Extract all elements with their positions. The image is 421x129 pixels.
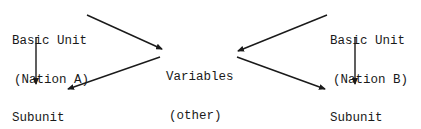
node-variables-line2: (other) — [169, 110, 234, 123]
arrow-variables-to-subunit-b — [237, 57, 325, 89]
node-subunit-a: Subunit (Leader- ship Grps) — [12, 86, 95, 129]
diagram-canvas: Basic Unit (Nation A) Basic Unit (Nation… — [0, 0, 421, 129]
node-variables-other: Variables (other) — [166, 45, 234, 129]
node-subunit-a-line1: Subunit — [12, 112, 95, 125]
node-subunit-b: Subunit (Leader- ship Grps) — [330, 86, 413, 129]
node-basic-a-line1: Basic Unit — [12, 35, 89, 48]
node-variables-line1: Variables — [166, 71, 234, 84]
node-basic-b-line1: Basic Unit — [330, 35, 408, 48]
arrow-basic-a-to-variables — [87, 15, 162, 49]
arrow-basic-b-to-variables — [238, 15, 327, 51]
node-subunit-b-line1: Subunit — [330, 112, 413, 125]
